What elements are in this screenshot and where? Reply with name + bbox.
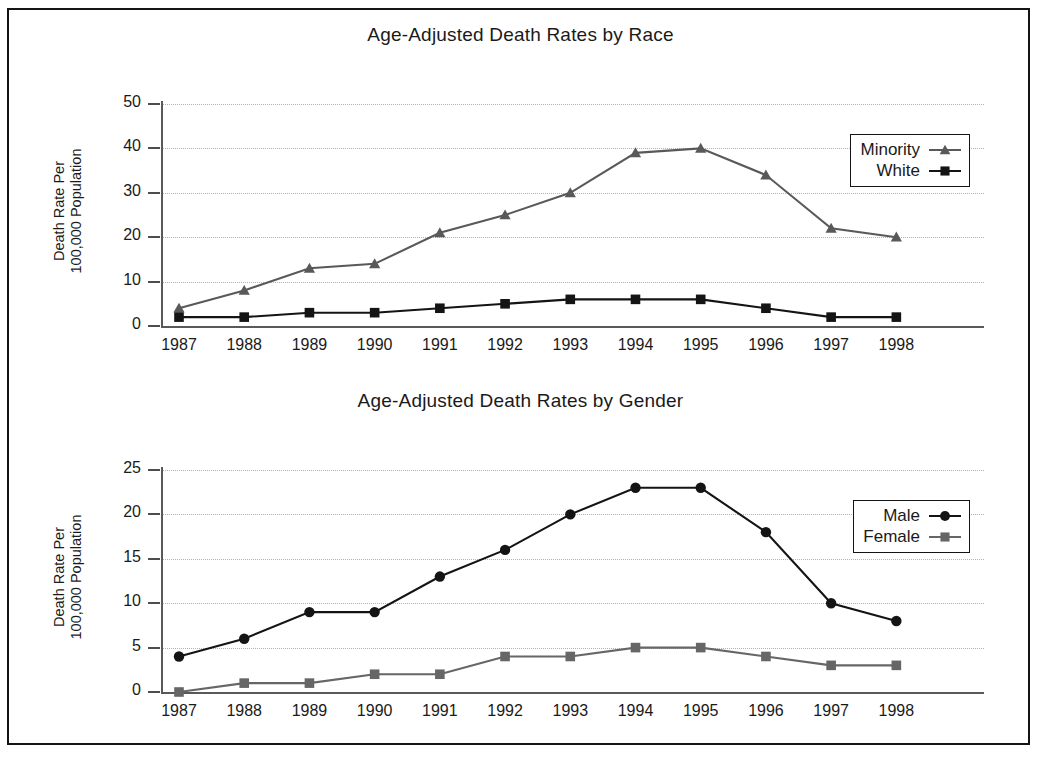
x-axis-tick-label: 1998 bbox=[861, 702, 931, 720]
data-point-female bbox=[370, 669, 380, 679]
y-axis-tick-label: 20 bbox=[86, 226, 141, 244]
data-point-white bbox=[239, 312, 249, 322]
data-point-female bbox=[239, 678, 249, 688]
chart-race-legend: MinorityWhite bbox=[850, 134, 970, 187]
y-axis-tick-label: 30 bbox=[86, 182, 141, 200]
data-point-male bbox=[826, 598, 836, 608]
series-line-minority bbox=[179, 148, 896, 308]
y-axis-tick-label: 50 bbox=[86, 93, 141, 111]
y-axis-tick bbox=[148, 602, 160, 604]
x-axis-tick-label: 1991 bbox=[405, 336, 475, 354]
data-point-white bbox=[174, 312, 184, 322]
legend-label: Female bbox=[863, 527, 920, 547]
data-point-female bbox=[565, 652, 575, 662]
data-point-male bbox=[304, 607, 314, 617]
legend-marker-circle-icon bbox=[929, 509, 961, 523]
legend-item-white: White bbox=[860, 160, 961, 181]
y-axis-tick-label: 20 bbox=[86, 503, 141, 521]
y-axis-tick bbox=[148, 469, 160, 471]
legend-marker-square-icon bbox=[929, 164, 961, 178]
y-axis-label-line2: 100,000 Population bbox=[68, 466, 85, 688]
y-axis-tick bbox=[148, 325, 160, 327]
data-point-male bbox=[174, 651, 184, 661]
legend-label: Minority bbox=[860, 140, 920, 160]
y-axis-label-line2: 100,000 Population bbox=[68, 100, 85, 322]
x-axis-tick-label: 1988 bbox=[209, 336, 279, 354]
y-axis-tick bbox=[148, 647, 160, 649]
y-axis-tick-label: 5 bbox=[86, 637, 141, 655]
x-axis-tick-label: 1997 bbox=[796, 336, 866, 354]
y-axis-tick-label: 25 bbox=[86, 459, 141, 477]
page-root: Age-Adjusted Death Rates by Race Death R… bbox=[0, 0, 1037, 759]
y-axis-tick-label: 0 bbox=[86, 681, 141, 699]
y-axis-label-line1: Death Rate Per bbox=[51, 527, 67, 627]
figure-frame: Age-Adjusted Death Rates by Race Death R… bbox=[7, 8, 1030, 745]
x-axis-tick-label: 1995 bbox=[666, 336, 736, 354]
y-axis-tick-label: 0 bbox=[86, 315, 141, 333]
x-axis-tick-label: 1988 bbox=[209, 702, 279, 720]
x-axis-tick-label: 1987 bbox=[144, 336, 214, 354]
data-point-female bbox=[174, 687, 184, 697]
y-axis-tick-label: 10 bbox=[86, 592, 141, 610]
chart-gender-title: Age-Adjusted Death Rates by Gender bbox=[9, 390, 1032, 412]
x-axis-tick-label: 1989 bbox=[274, 702, 344, 720]
data-point-minority bbox=[565, 187, 576, 197]
data-point-white bbox=[565, 295, 575, 305]
y-axis-label-line1: Death Rate Per bbox=[51, 161, 67, 261]
legend-item-female: Female bbox=[863, 526, 961, 547]
data-point-white bbox=[892, 312, 902, 322]
data-point-male bbox=[891, 616, 901, 626]
data-point-male bbox=[239, 634, 249, 644]
data-point-male bbox=[565, 509, 575, 519]
x-axis-tick-label: 1989 bbox=[274, 336, 344, 354]
data-point-white bbox=[305, 308, 315, 318]
series-line-white bbox=[179, 299, 896, 317]
y-axis-tick-label: 10 bbox=[86, 271, 141, 289]
y-axis-tick bbox=[148, 558, 160, 560]
y-axis-tick bbox=[148, 192, 160, 194]
data-point-female bbox=[761, 652, 771, 662]
data-point-female bbox=[435, 669, 445, 679]
y-axis-tick-label: 40 bbox=[86, 137, 141, 155]
y-axis-tick bbox=[148, 281, 160, 283]
x-axis-tick-label: 1987 bbox=[144, 702, 214, 720]
data-point-male bbox=[435, 571, 445, 581]
legend-label: White bbox=[877, 161, 920, 181]
chart-gender-legend: MaleFemale bbox=[853, 500, 970, 553]
legend-marker-square-icon bbox=[929, 530, 961, 544]
data-point-female bbox=[305, 678, 315, 688]
y-axis-tick-label: 15 bbox=[86, 548, 141, 566]
data-point-female bbox=[892, 661, 902, 671]
x-axis-tick-label: 1992 bbox=[470, 702, 540, 720]
data-point-female bbox=[631, 643, 641, 653]
x-axis-tick-label: 1996 bbox=[731, 702, 801, 720]
data-point-male bbox=[500, 545, 510, 555]
x-axis-tick-label: 1994 bbox=[600, 336, 670, 354]
y-axis-tick bbox=[148, 147, 160, 149]
data-point-white bbox=[696, 295, 706, 305]
data-point-female bbox=[696, 643, 706, 653]
x-axis-tick-label: 1994 bbox=[600, 702, 670, 720]
x-axis-tick-label: 1992 bbox=[470, 336, 540, 354]
legend-item-male: Male bbox=[863, 505, 961, 526]
legend-label: Male bbox=[883, 506, 920, 526]
chart-gender: Age-Adjusted Death Rates by Gender Death… bbox=[9, 390, 1032, 735]
legend-item-minority: Minority bbox=[860, 139, 961, 160]
chart-gender-y-axis-label: Death Rate Per 100,000 Population bbox=[51, 466, 85, 688]
series-line-male bbox=[179, 488, 896, 657]
data-point-male bbox=[369, 607, 379, 617]
legend-marker-triangle-icon bbox=[929, 143, 961, 157]
chart-race-title: Age-Adjusted Death Rates by Race bbox=[9, 24, 1032, 46]
y-axis-tick bbox=[148, 236, 160, 238]
y-axis-tick bbox=[148, 103, 160, 105]
data-point-white bbox=[370, 308, 380, 318]
x-axis-tick-label: 1991 bbox=[405, 702, 475, 720]
x-axis-tick-label: 1998 bbox=[861, 336, 931, 354]
y-axis-tick bbox=[148, 513, 160, 515]
x-axis-tick-label: 1990 bbox=[340, 702, 410, 720]
data-point-male bbox=[630, 483, 640, 493]
data-point-white bbox=[826, 312, 836, 322]
y-axis-tick bbox=[148, 691, 160, 693]
data-point-white bbox=[435, 303, 445, 313]
data-point-white bbox=[500, 299, 510, 309]
